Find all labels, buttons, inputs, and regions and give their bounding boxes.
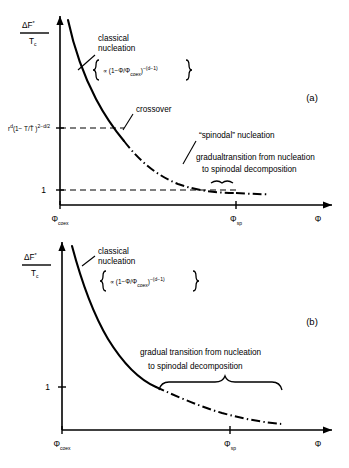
leader-classical-b — [82, 256, 95, 266]
annotation-classical-line1-b: classical — [98, 247, 129, 256]
formula-exp-b: −(d−1) — [150, 276, 165, 282]
y-label-star-a: * — [32, 20, 35, 26]
y-axis-label-b: ΔF* Tc — [22, 252, 51, 279]
y-tick-label-crossover-a: rd(1− T/T̄ )2−d/2 — [8, 123, 50, 133]
y-tick-label-one-b: 1 — [45, 382, 50, 392]
y-tick-label-one-a: 1 — [41, 185, 46, 195]
panel-a: ΔF* Tc rd(1− T/T̄ )2−d/2 1 Φcoex — [0, 0, 349, 234]
x-axis-label-b: Φ — [315, 440, 322, 449]
annotation-formula-b: ∝ (1−Φ/Φcoex)−(d−1) — [100, 271, 199, 291]
svg-text:rd(1− T/T̄ )2−d/2: rd(1− T/T̄ )2−d/2 — [8, 123, 50, 133]
annotation-gradual-line2-b: to spinodal decomposition — [148, 362, 243, 371]
annotation-gradual-line1-b: gradual transition from nucleation — [140, 348, 262, 357]
annotation-spinodal-a: “spinodal” nucleation — [199, 131, 275, 140]
x-axis-label-a: Φ — [315, 215, 322, 224]
x-tick-label-sp-a: Φsp — [230, 215, 242, 226]
x-tick-label-coex-a: Φcoex — [51, 215, 69, 226]
y-label-denominator-sub-b: c — [36, 273, 39, 279]
formula-left-brace-b — [100, 271, 106, 291]
y-label-denominator-sub-a: c — [34, 41, 37, 47]
formula-body-b: ∝ (1−Φ/Φ — [110, 278, 137, 286]
curve-classical-b — [72, 246, 156, 387]
ytick-exp-a: 2−d/2 — [37, 123, 50, 129]
y-label-star-b: * — [34, 252, 37, 258]
curve-tail-a — [236, 193, 268, 194]
annotation-classical-line2-b: nucleation — [98, 257, 136, 266]
y-label-numerator-a: ΔF — [22, 21, 32, 30]
axes-panel-b — [58, 242, 332, 434]
x-axis-arrowhead-b — [323, 426, 332, 433]
annotation-gradual-line2-a: to spinodal decomposition — [202, 165, 297, 174]
formula-left-brace-a — [93, 60, 99, 80]
svg-text:ΔF*: ΔF* — [24, 252, 37, 262]
annotation-crossover-a: crossover — [136, 105, 172, 114]
x-tick-label-coex-b: Φcoex — [53, 440, 71, 451]
ytick-rest-a: (1− T/T̄ ) — [13, 125, 38, 133]
panel-label-b: (b) — [306, 316, 318, 327]
gradual-brace-b — [159, 376, 282, 390]
svg-text:Tc: Tc — [29, 37, 37, 47]
x-tick-label-sp-b: Φsp — [224, 440, 236, 451]
formula-exp-a: −(d−1) — [143, 65, 158, 71]
annotation-formula-a: ∝ (1−Φ/Φcoex)−(d−1) — [93, 60, 192, 80]
leader-spinodal-a — [183, 141, 196, 164]
y-axis-arrowhead-a — [56, 16, 63, 25]
formula-body-a: ∝ (1−Φ/Φ — [103, 67, 130, 75]
gradual-brace-a — [211, 181, 233, 183]
svg-text:∝ (1−Φ/Φcoex)−(d−1): ∝ (1−Φ/Φcoex)−(d−1) — [110, 276, 165, 288]
formula-right-brace-a — [186, 60, 192, 80]
svg-text:Tc: Tc — [31, 269, 39, 279]
annotation-classical-line1-a: classical — [98, 34, 129, 43]
curve-spinodal-b — [156, 387, 282, 424]
formula-sub-b: coex — [137, 282, 148, 288]
x-axis-arrowhead-a — [323, 201, 332, 208]
formula-right-brace-b — [193, 271, 199, 291]
panel-b: ΔF* Tc 1 Φcoex Φsp Φ classical nucleatio… — [0, 234, 349, 468]
panel-label-a: (a) — [306, 92, 318, 103]
y-label-numerator-b: ΔF — [24, 253, 34, 262]
y-axis-arrowhead-b — [58, 242, 65, 251]
annotation-classical-line2-a: nucleation — [98, 44, 136, 53]
annotation-gradual-line1-a: gradualtransition from nucleation — [196, 153, 315, 162]
y-axis-label-a: ΔF* Tc — [20, 20, 49, 47]
figure-container: ΔF* Tc rd(1− T/T̄ )2−d/2 1 Φcoex — [0, 0, 349, 468]
svg-text:∝ (1−Φ/Φcoex)−(d−1): ∝ (1−Φ/Φcoex)−(d−1) — [103, 65, 158, 77]
svg-text:ΔF*: ΔF* — [22, 20, 35, 30]
formula-sub-a: coex — [130, 71, 141, 77]
leader-crossover-a — [123, 114, 133, 130]
